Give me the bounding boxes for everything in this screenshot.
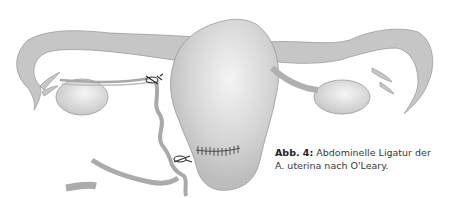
right-fimbriae (372, 68, 394, 94)
lower-ligature-icon (174, 156, 192, 162)
uterus-body (171, 19, 279, 190)
iliac-vessel (92, 160, 178, 183)
right-ovary (314, 80, 370, 114)
caption-line-2: A. uterina nach O'Leary. (275, 160, 389, 171)
iliac-vessel-stump (66, 185, 96, 188)
figure-caption: Abb. 4: Abdominelle Ligatur der A. uteri… (275, 146, 450, 172)
right-ovarian-ligament (272, 68, 318, 90)
figure-label: Abb. 4: (275, 147, 313, 158)
left-ovarian-vessel (60, 78, 150, 82)
caption-line-1: Abdominelle Ligatur der (316, 147, 431, 158)
